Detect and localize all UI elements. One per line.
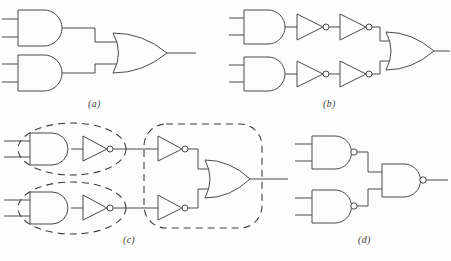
panel-label-c: (c) xyxy=(123,234,135,245)
and-gate-top-b xyxy=(229,10,285,44)
wires-c xyxy=(71,149,288,208)
wires-d xyxy=(357,152,448,206)
inverter-bottom-group1-c xyxy=(83,195,113,220)
nand-gate-bottom-d xyxy=(295,190,357,223)
panel-label-b: (b) xyxy=(323,98,336,109)
panel-c xyxy=(4,123,288,234)
panel-d xyxy=(295,136,448,223)
panel-label-d: (d) xyxy=(358,234,371,245)
panel-a xyxy=(2,10,196,91)
inverter-top-first-b xyxy=(297,14,329,40)
inverter-top-group2-c xyxy=(158,136,188,161)
inverter-bottom-group2-c xyxy=(158,195,188,220)
or-gate-b xyxy=(386,32,434,70)
or-gate-c xyxy=(205,160,250,198)
panel-b xyxy=(229,10,450,91)
or-gate-a xyxy=(113,33,167,73)
inverter-top-second-b xyxy=(340,14,372,40)
logic-circuit-figure: (a) (b) (c) (d) xyxy=(0,0,451,261)
and-gate-bottom-c xyxy=(4,192,68,224)
dashed-rect-nor-group-c xyxy=(144,124,262,228)
and-gate-top-a xyxy=(2,10,62,46)
and-gate-top-c xyxy=(4,133,68,165)
circuit-canvas xyxy=(0,0,451,261)
inverter-top-group1-c xyxy=(83,136,113,161)
panel-label-a: (a) xyxy=(88,98,101,109)
nand-gate-top-d xyxy=(295,136,357,169)
nand-gate-output-d xyxy=(382,164,426,197)
inverter-bottom-first-b xyxy=(297,61,329,87)
and-gate-bottom-a xyxy=(2,55,62,91)
and-gate-bottom-b xyxy=(229,57,285,91)
dashed-annotations-c xyxy=(18,123,262,234)
inverter-bottom-second-b xyxy=(340,61,372,87)
